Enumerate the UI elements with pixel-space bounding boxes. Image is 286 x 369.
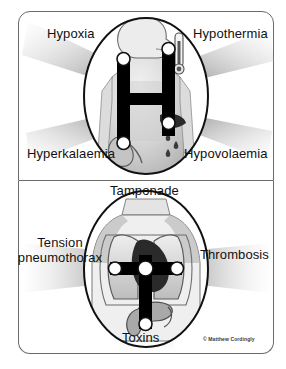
node-hypothermia — [162, 43, 175, 56]
copyright-notice: © Matthew Cordingly — [203, 336, 255, 342]
figure-four-ts — [18, 181, 274, 354]
label-tamponade: Tamponade — [110, 184, 179, 198]
node-tension-pneumothorax — [109, 262, 122, 275]
four-ts-illustration — [18, 181, 274, 354]
label-tension-line2: pneumothorax — [16, 250, 104, 265]
node-thrombosis — [171, 262, 184, 275]
label-toxins: Toxins — [122, 331, 159, 345]
label-hypovolaemia: Hypovolaemia — [184, 147, 268, 161]
thermometer-icon — [174, 33, 184, 74]
node-toxins — [139, 318, 152, 331]
label-tension-pneumothorax: Tension pneumothorax — [16, 235, 104, 265]
node-hypoxia — [117, 53, 130, 66]
label-tension-line1: Tension — [16, 235, 104, 250]
label-hypothermia: Hypothermia — [193, 27, 268, 41]
poster-root: Hypoxia Hypothermia Hyperkalaemia Hypovo… — [0, 0, 286, 369]
label-thrombosis: Thrombosis — [200, 248, 269, 262]
node-hyperkalaemia — [117, 137, 130, 150]
label-hyperkalaemia: Hyperkalaemia — [27, 147, 115, 161]
label-hypoxia: Hypoxia — [47, 27, 95, 41]
node-hypovolaemia — [162, 117, 175, 130]
node-tamponade — [138, 261, 153, 276]
